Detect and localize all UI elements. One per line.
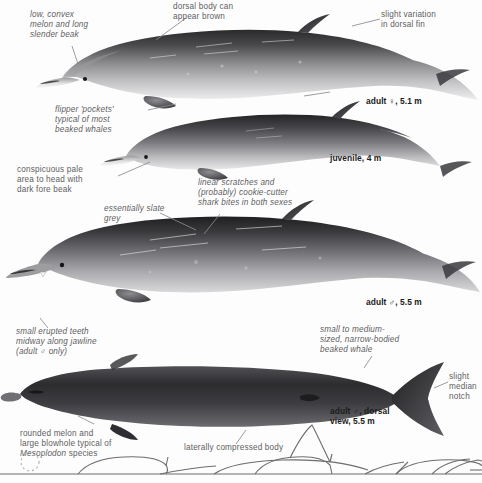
genus-name-mesoplodon: Mesoplodon [20,449,66,458]
caption-juvenile: juvenile, 4 m [330,153,381,163]
annotation-laterally-compressed: laterally compressed body [184,443,324,453]
annotation-median-notch: slight median notch [449,372,482,403]
annotation-rounded-melon-head: rounded melon and large blowhole typical… [20,429,111,448]
annotation-scratches-bites: linear scratches and (probably) cookie-c… [198,178,324,209]
leader-lines [0,0,482,483]
whale-artwork [0,0,482,483]
annotation-body-shape: small to medium- sized, narrow-bodied be… [320,325,440,356]
figure-adult-male-dorsal-view [1,354,444,440]
annotation-dorsal-brown: dorsal body can appear brown [173,2,265,22]
annotation-rounded-melon-tail: species [66,449,97,458]
figure-adult-male-lateral [6,200,480,302]
annotation-dorsal-fin-variation: slight variation in dorsal fin [381,10,471,30]
caption-adult-male-dorsal: adult ♂, dorsal view, 5.5 m [330,406,390,427]
figure-juvenile-lateral [100,101,472,180]
annotation-pale-head: conspicuous pale area to head with dark … [17,165,121,196]
annotation-erupted-teeth: small erupted teeth midway along jawline… [16,327,134,358]
caption-adult-male: adult ♂, 5.5 m [366,297,422,307]
caption-adult-female: adult ♀, 5.1 m [366,96,422,106]
annotation-melon-beak: low, convex melon and long slender beak [30,10,114,41]
whale-identification-plate: low, convex melon and long slender beak … [0,0,482,483]
annotation-rounded-melon: rounded melon and large blowhole typical… [20,429,146,460]
annotation-flipper-pockets: flipper 'pockets' typical of most beaked… [55,105,147,136]
annotation-slate-grey: essentially slate grey [104,204,190,224]
